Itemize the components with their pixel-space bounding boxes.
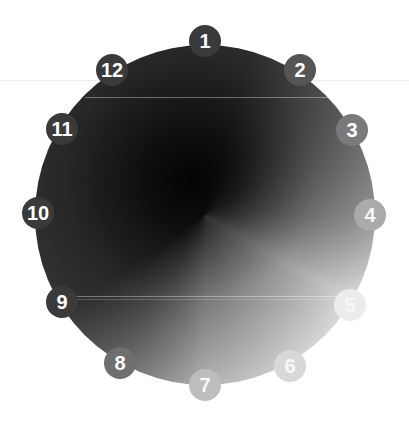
- hour-label: 7: [199, 375, 210, 395]
- hour-label: 5: [344, 295, 355, 315]
- hour-label: 3: [346, 120, 357, 140]
- hour-marker-1: 1: [189, 25, 221, 57]
- hour-label: 6: [284, 356, 295, 376]
- hour-marker-9: 9: [46, 286, 78, 318]
- scan-line: [85, 97, 330, 98]
- hour-marker-2: 2: [284, 54, 316, 86]
- hour-label: 11: [51, 119, 72, 139]
- hour-marker-6: 6: [274, 350, 306, 382]
- hour-marker-8: 8: [104, 347, 136, 379]
- scan-line: [60, 296, 360, 297]
- hour-label: 1: [199, 31, 210, 51]
- hour-marker-7: 7: [189, 369, 221, 401]
- hour-label: 9: [56, 292, 67, 312]
- hour-marker-11: 11: [46, 113, 78, 145]
- hour-marker-4: 4: [354, 199, 386, 231]
- gradient-dial: [35, 45, 375, 385]
- hour-label: 12: [101, 60, 123, 80]
- hour-label: 10: [27, 203, 49, 223]
- hour-label: 2: [294, 60, 305, 80]
- hour-marker-5: 5: [334, 289, 366, 321]
- clock-gradient-diagram: 1 2 3 4 5 6 7 8 9 10 11 12: [0, 0, 409, 422]
- hour-label: 4: [364, 205, 375, 225]
- hour-marker-12: 12: [96, 54, 128, 86]
- hour-marker-10: 10: [22, 197, 54, 229]
- scan-line: [60, 299, 360, 300]
- hour-label: 8: [114, 353, 125, 373]
- hour-marker-3: 3: [336, 114, 368, 146]
